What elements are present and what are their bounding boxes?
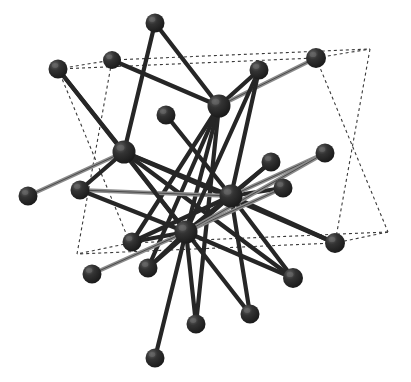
atom-body xyxy=(187,315,206,334)
atom-body xyxy=(325,233,345,253)
atom-sphere xyxy=(123,233,142,252)
atom-hub xyxy=(175,221,198,244)
atom-highlight xyxy=(52,63,58,68)
atom-body xyxy=(306,48,326,68)
atom-body xyxy=(220,185,243,208)
atom-body xyxy=(146,349,165,368)
atom-body xyxy=(316,144,335,163)
atom-highlight xyxy=(142,262,148,267)
atom-sphere xyxy=(83,265,102,284)
atom-highlight xyxy=(244,308,250,313)
atom-body xyxy=(274,179,293,198)
atom-highlight xyxy=(117,145,125,151)
atom-sphere xyxy=(157,106,176,125)
atom-body xyxy=(157,106,176,125)
atom-highlight xyxy=(329,237,336,242)
atom-sphere xyxy=(146,14,165,33)
atom-highlight xyxy=(190,318,196,323)
atom-body xyxy=(208,95,231,118)
atom-sphere xyxy=(19,187,38,206)
atom-sphere xyxy=(262,153,281,172)
atom-body xyxy=(241,305,260,324)
atom-sphere xyxy=(325,233,345,253)
atom-body xyxy=(71,181,90,200)
atom-sphere xyxy=(187,315,206,334)
atom-sphere xyxy=(71,181,90,200)
atom-highlight xyxy=(265,156,271,161)
atom-highlight xyxy=(106,54,112,59)
atom-body xyxy=(139,259,158,278)
atom-body xyxy=(262,153,281,172)
atom-highlight xyxy=(212,99,220,105)
atom-highlight xyxy=(22,190,28,195)
atom-sphere xyxy=(306,48,326,68)
crystal-structure-diagram xyxy=(0,0,411,382)
atom-highlight xyxy=(224,189,232,195)
atom-highlight xyxy=(149,352,155,357)
atom-highlight xyxy=(253,64,259,69)
atom-sphere xyxy=(146,349,165,368)
atom-highlight xyxy=(149,17,155,22)
atom-highlight xyxy=(74,184,80,189)
atom-highlight xyxy=(160,109,166,114)
atom-highlight xyxy=(277,182,283,187)
atom-sphere xyxy=(241,305,260,324)
atom-highlight xyxy=(126,236,132,241)
atom-body xyxy=(175,221,198,244)
atom-sphere xyxy=(49,60,68,79)
atom-body xyxy=(103,51,121,69)
atom-body xyxy=(83,265,102,284)
atom-highlight xyxy=(310,52,317,57)
atom-body xyxy=(123,233,142,252)
atom-highlight xyxy=(319,147,325,152)
atom-hub xyxy=(208,95,231,118)
atom-hub xyxy=(220,185,243,208)
atom-sphere xyxy=(139,259,158,278)
atom-sphere xyxy=(250,61,269,80)
atom-body xyxy=(146,14,165,33)
atom-sphere xyxy=(283,268,303,288)
atom-body xyxy=(49,60,68,79)
atom-highlight xyxy=(287,272,294,277)
atom-highlight xyxy=(179,225,187,231)
atom-body xyxy=(250,61,269,80)
atom-body xyxy=(113,141,136,164)
atom-highlight xyxy=(86,268,92,273)
atom-hub xyxy=(113,141,136,164)
atom-body xyxy=(19,187,38,206)
atom-body xyxy=(283,268,303,288)
atom-sphere xyxy=(103,51,121,69)
atom-sphere xyxy=(316,144,335,163)
atom-sphere xyxy=(274,179,293,198)
structure-figure-container xyxy=(0,0,411,382)
